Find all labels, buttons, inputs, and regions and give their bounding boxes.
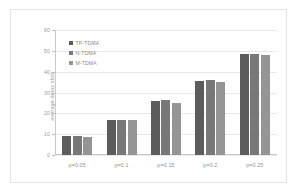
y-axis-tick-label: 0: [47, 152, 50, 158]
x-axis-tick-label: p=0.05: [69, 162, 86, 168]
legend-label: N-TDMA: [76, 50, 97, 56]
y-axis-tick-label: 30: [44, 90, 50, 96]
bar: [161, 100, 170, 155]
bar: [261, 55, 270, 155]
bar-group: p=0.15: [144, 30, 188, 155]
y-axis-tick-label: 50: [44, 48, 50, 54]
y-axis-tick-label: 20: [44, 110, 50, 116]
legend-item[interactable]: N-TDMA: [69, 48, 99, 58]
chart-legend: TP-TDMAN-TDMAM-TDMA: [69, 38, 99, 68]
legend-item[interactable]: TP-TDMA: [69, 38, 99, 48]
legend-item[interactable]: M-TDMA: [69, 58, 99, 68]
y-axis-tick-label: 40: [44, 69, 50, 75]
bar: [107, 120, 116, 155]
x-axis-tick-label: p=0.15: [157, 162, 174, 168]
bar: [73, 136, 82, 155]
bar-group: p=0.1: [99, 30, 143, 155]
bar: [206, 80, 215, 155]
x-axis-tick-label: p=0.2: [203, 162, 217, 168]
x-axis-tick-label: p=0.1: [115, 162, 129, 168]
legend-swatch-icon: [69, 61, 73, 65]
gridline: [55, 155, 277, 156]
bar: [172, 103, 181, 155]
y-axis-tick: [52, 155, 55, 156]
x-axis-tick-label: p=0.25: [246, 162, 263, 168]
bar: [240, 54, 249, 155]
bar: [151, 101, 160, 155]
bar-group: p=0.2: [188, 30, 232, 155]
bar-group: p=0.25: [233, 30, 277, 155]
bar: [195, 81, 204, 155]
legend-swatch-icon: [69, 51, 73, 55]
bar: [62, 136, 71, 155]
y-axis-tick-label: 10: [44, 131, 50, 137]
legend-swatch-icon: [69, 41, 73, 45]
y-axis-tick-label: 60: [44, 27, 50, 33]
chart-container: average delay slots 0102030405060 p=0.05…: [10, 9, 287, 183]
bar: [128, 120, 137, 155]
bar: [250, 54, 259, 155]
bar: [117, 120, 126, 155]
bar: [83, 137, 92, 155]
bar: [216, 82, 225, 155]
legend-label: TP-TDMA: [76, 40, 100, 46]
legend-label: M-TDMA: [76, 60, 97, 66]
